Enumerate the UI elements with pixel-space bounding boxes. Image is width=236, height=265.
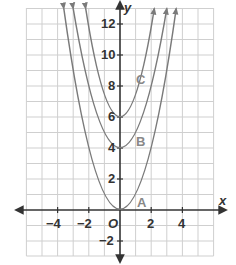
curve-label-c: C xyxy=(136,72,146,87)
y-tick-8: 8 xyxy=(108,78,115,93)
origin-label: O xyxy=(108,216,118,231)
x-tick-4: 4 xyxy=(178,216,186,231)
x-tick-2: 2 xyxy=(147,216,154,231)
curve-label-a: A xyxy=(137,195,147,210)
y-tick-6: 6 xyxy=(108,109,115,124)
coordinate-plane: −4 −2 2 4 −2 2 4 6 8 10 12 O x y A B C xyxy=(0,0,236,265)
y-tick-4: 4 xyxy=(108,140,116,155)
y-tick-2: 2 xyxy=(108,171,115,186)
y-axis-label: y xyxy=(123,0,132,15)
y-tick-neg2: −2 xyxy=(99,233,114,248)
curve-label-b: B xyxy=(136,134,145,149)
x-tick-neg4: −4 xyxy=(46,216,62,231)
y-tick-12: 12 xyxy=(101,16,115,31)
x-axis-label: x xyxy=(218,193,227,208)
y-tick-10: 10 xyxy=(101,47,115,62)
x-tick-neg2: −2 xyxy=(77,216,92,231)
